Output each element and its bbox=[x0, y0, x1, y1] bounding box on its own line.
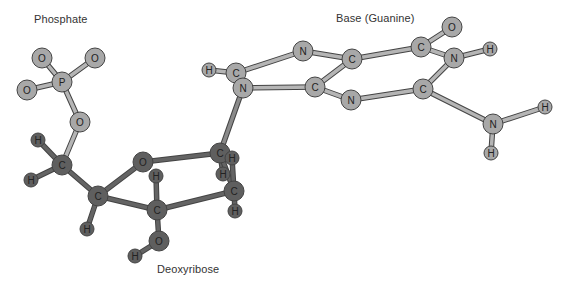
svg-text:N: N bbox=[347, 95, 354, 106]
svg-text:H: H bbox=[83, 224, 90, 235]
oxygen-atom-pO2: O bbox=[85, 48, 105, 68]
hydrogen-atom-H4: H bbox=[80, 222, 94, 236]
hydrogen-atom-H2a: H bbox=[216, 167, 230, 181]
svg-text:C: C bbox=[348, 54, 355, 65]
carbon-atom-gC4: C bbox=[305, 77, 325, 97]
svg-text:C: C bbox=[230, 186, 237, 197]
bond bbox=[423, 89, 493, 124]
hydrogen-atom-gH2b: H bbox=[484, 146, 498, 160]
svg-text:H: H bbox=[34, 135, 41, 146]
svg-text:C: C bbox=[417, 42, 424, 53]
carbon-atom-C3: C bbox=[147, 200, 167, 220]
hydrogen-atom-H5a: H bbox=[31, 133, 45, 147]
svg-text:H: H bbox=[152, 171, 159, 182]
nitrogen-atom-gN9: N bbox=[233, 78, 253, 98]
svg-text:O: O bbox=[38, 53, 46, 64]
svg-text:H: H bbox=[541, 102, 548, 113]
svg-text:O: O bbox=[76, 117, 84, 128]
svg-text:C: C bbox=[58, 160, 65, 171]
bond bbox=[351, 89, 423, 100]
nitrogen-atom-gN3: N bbox=[341, 90, 361, 110]
nitrogen-atom-gN1: N bbox=[444, 48, 464, 68]
oxygen-atom-gO6: O bbox=[442, 17, 462, 37]
svg-text:N: N bbox=[239, 83, 246, 94]
hydrogen-atom-gH1: H bbox=[483, 42, 497, 56]
svg-text:O: O bbox=[448, 22, 456, 33]
svg-text:N: N bbox=[450, 53, 457, 64]
svg-text:N: N bbox=[299, 46, 306, 57]
svg-text:H: H bbox=[228, 153, 235, 164]
bond bbox=[143, 153, 220, 162]
hydrogen-atom-H1: H bbox=[225, 151, 239, 165]
carbon-atom-gC2: C bbox=[413, 79, 433, 99]
phosphate-label: Phosphate bbox=[34, 13, 88, 25]
molecule-diagram: OOPOOHCHCHOCHHCHCHOHHCNNCCNCONHCNHH Phos… bbox=[0, 0, 568, 291]
bond bbox=[236, 51, 303, 73]
oxygen-atom-O4r: O bbox=[133, 152, 153, 172]
carbon-atom-gC6: C bbox=[411, 37, 431, 57]
carbon-atom-C5: C bbox=[52, 155, 72, 175]
svg-text:C: C bbox=[311, 82, 318, 93]
svg-text:O: O bbox=[91, 53, 99, 64]
hydrogen-atom-H3: H bbox=[149, 169, 163, 183]
bond bbox=[243, 87, 315, 88]
svg-text:H: H bbox=[219, 169, 226, 180]
svg-text:P: P bbox=[59, 77, 66, 88]
svg-text:N: N bbox=[489, 119, 496, 130]
carbon-atom-C2: C bbox=[224, 181, 244, 201]
svg-text:H: H bbox=[205, 65, 212, 76]
svg-text:C: C bbox=[94, 191, 101, 202]
svg-text:O: O bbox=[23, 85, 31, 96]
oxygen-atom-pO4: O bbox=[70, 112, 90, 132]
carbon-atom-C4: C bbox=[88, 186, 108, 206]
svg-text:H: H bbox=[131, 251, 138, 262]
hydrogen-atom-HO3: H bbox=[128, 249, 142, 263]
hydrogen-atom-gH8: H bbox=[202, 63, 216, 77]
nitrogen-atom-gN2: N bbox=[483, 114, 503, 134]
svg-text:O: O bbox=[155, 236, 163, 247]
svg-text:C: C bbox=[153, 205, 160, 216]
hydrogen-atom-H5b: H bbox=[24, 173, 38, 187]
oxygen-atom-pO3: O bbox=[17, 80, 37, 100]
bond bbox=[157, 191, 234, 210]
hydrogen-atom-gH2a: H bbox=[538, 100, 552, 114]
svg-text:C: C bbox=[216, 148, 223, 159]
phosphorus-atom-P: P bbox=[52, 72, 72, 92]
svg-text:H: H bbox=[27, 175, 34, 186]
svg-text:C: C bbox=[232, 68, 239, 79]
nitrogen-atom-gN7: N bbox=[293, 41, 313, 61]
svg-text:O: O bbox=[139, 157, 147, 168]
svg-text:H: H bbox=[487, 148, 494, 159]
carbon-atom-gC5: C bbox=[342, 49, 362, 69]
bond bbox=[352, 47, 421, 59]
svg-text:C: C bbox=[419, 84, 426, 95]
svg-text:H: H bbox=[486, 44, 493, 55]
nucleotide-structure: OOPOOHCHCHOCHHCHCHOHHCNNCCNCONHCNHH bbox=[0, 0, 568, 291]
hydrogen-atom-H2b: H bbox=[228, 204, 242, 218]
svg-text:H: H bbox=[231, 206, 238, 217]
oxygen-atom-pO1: O bbox=[32, 48, 52, 68]
base-guanine-label: Base (Guanine) bbox=[336, 12, 414, 24]
oxygen-atom-O3: O bbox=[149, 231, 169, 251]
deoxyribose-label: Deoxyribose bbox=[157, 263, 219, 275]
